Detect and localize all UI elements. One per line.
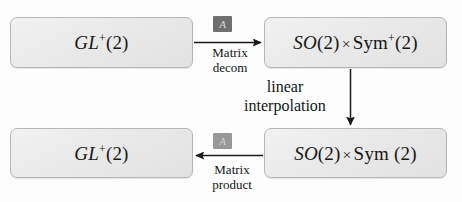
node-so-sym[interactable]: SO(2)×Sym (2) xyxy=(264,128,447,178)
caption-matrix-product: Matrix product xyxy=(198,163,266,192)
node-so-sym-plus-sup: + xyxy=(388,32,395,45)
node-gl-plus-top-label: GL+(2) xyxy=(74,33,128,52)
node-gl-plus-top-sup: + xyxy=(99,32,106,45)
caption-matrix-product-line1: Matrix xyxy=(198,163,266,178)
node-so-sym-tail: (2) xyxy=(394,143,417,164)
caption-linear-interpolation-line1: linear xyxy=(228,78,342,97)
node-so-sym-mid: (2) xyxy=(318,143,341,164)
node-gl-plus-top-tail: (2) xyxy=(106,32,129,53)
node-gl-plus-bottom-sup: + xyxy=(99,142,106,155)
node-so-sym-plus-mid: (2) xyxy=(317,32,340,53)
caption-matrix-product-line2: product xyxy=(198,178,266,193)
times-symbol-bottom: × xyxy=(341,146,354,163)
node-so-sym-label: SO(2)×Sym (2) xyxy=(294,144,417,163)
node-so-sym-plus-label: SO(2)×Sym+(2) xyxy=(293,33,417,52)
matrix-a-chip-top-label: A xyxy=(219,18,226,30)
caption-matrix-decom-line1: Matrix xyxy=(198,46,262,61)
times-symbol-top: × xyxy=(340,35,353,52)
node-gl-plus-bottom-label: GL+(2) xyxy=(74,144,128,163)
matrix-a-chip-bottom-label: A xyxy=(219,135,226,147)
node-gl-plus-bottom-italic: GL xyxy=(74,143,99,164)
caption-matrix-decom-line2: decom xyxy=(198,61,262,76)
node-so-sym-plus-upright: Sym xyxy=(353,32,388,53)
node-gl-plus-top[interactable]: GL+(2) xyxy=(10,17,193,68)
caption-matrix-decom: Matrix decom xyxy=(198,46,262,75)
caption-linear-interpolation-line2: interpolation xyxy=(228,97,342,116)
diagram-canvas: GL+(2) SO(2)×Sym+(2) SO(2)×Sym (2) GL+(2… xyxy=(0,0,462,202)
node-so-sym-upright: Sym xyxy=(354,143,389,164)
node-so-sym-plus-tail: (2) xyxy=(395,32,418,53)
node-so-sym-plus-italic: SO xyxy=(293,32,317,53)
node-so-sym-italic: SO xyxy=(294,143,318,164)
node-gl-plus-top-italic: GL xyxy=(74,32,99,53)
matrix-a-chip-bottom: A xyxy=(213,133,232,149)
node-so-sym-plus[interactable]: SO(2)×Sym+(2) xyxy=(264,17,447,68)
node-gl-plus-bottom[interactable]: GL+(2) xyxy=(10,128,193,178)
matrix-a-chip-top: A xyxy=(213,16,232,32)
caption-linear-interpolation: linear interpolation xyxy=(228,78,342,116)
node-gl-plus-bottom-tail: (2) xyxy=(106,143,129,164)
